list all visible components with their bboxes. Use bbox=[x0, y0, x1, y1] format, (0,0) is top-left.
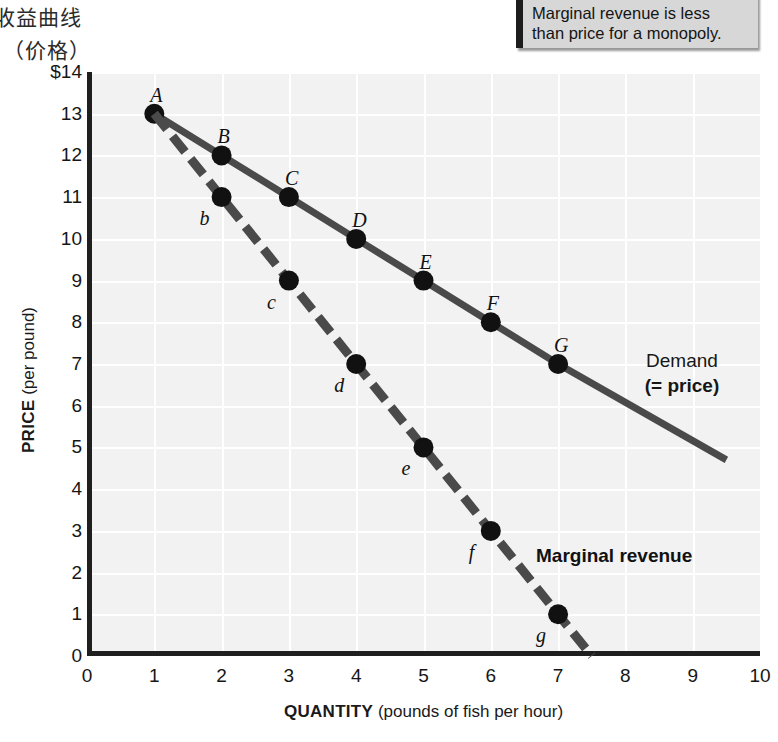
x-axis-tick-label: 5 bbox=[404, 665, 444, 687]
gridline-vertical bbox=[760, 72, 762, 656]
chinese-caption-line-2: （价格） bbox=[0, 35, 194, 68]
data-point-label: c bbox=[267, 291, 276, 314]
data-point-marker bbox=[548, 604, 568, 624]
data-point-marker bbox=[346, 354, 366, 374]
x-axis-tick-label: 6 bbox=[471, 665, 511, 687]
data-point-label: f bbox=[469, 541, 475, 564]
data-point-marker bbox=[481, 312, 501, 332]
x-axis-title-rest: (pounds of fish per hour) bbox=[373, 702, 563, 721]
chinese-caption-line-1: 收益曲线 bbox=[0, 2, 194, 35]
data-point-label: e bbox=[402, 457, 411, 480]
marginal-revenue-curve-label: Marginal revenue bbox=[536, 545, 692, 567]
data-point-label: d bbox=[334, 374, 344, 397]
demand-curve-label: Demand (= price) bbox=[617, 348, 747, 398]
demand-curve-line bbox=[154, 114, 726, 460]
x-axis-tick-label: 8 bbox=[605, 665, 645, 687]
x-axis-tick-label: 9 bbox=[673, 665, 713, 687]
y-axis-tick-label: 8 bbox=[36, 311, 82, 333]
y-axis-tick-label: 6 bbox=[36, 395, 82, 417]
data-point-label: A bbox=[150, 84, 162, 107]
y-axis-tick-label: 1 bbox=[36, 603, 82, 625]
y-axis-tick-label: 12 bbox=[36, 144, 82, 166]
y-axis-tick-label: 3 bbox=[36, 520, 82, 542]
y-axis-tick-label: 2 bbox=[36, 562, 82, 584]
data-point-marker bbox=[346, 229, 366, 249]
data-point-marker bbox=[481, 521, 501, 541]
x-axis-tick-label: 2 bbox=[202, 665, 242, 687]
y-axis-tick-label: 7 bbox=[36, 353, 82, 375]
callout-line-1: Marginal revenue is less bbox=[532, 3, 752, 23]
x-axis-tick-label: 0 bbox=[67, 665, 107, 687]
demand-curve-label-line-2: (= price) bbox=[617, 373, 747, 398]
callout-box: Marginal revenue is less than price for … bbox=[516, 0, 758, 48]
data-point-label: D bbox=[352, 209, 366, 232]
x-axis-tick-label: 4 bbox=[336, 665, 376, 687]
x-axis-title: QUANTITY (pounds of fish per hour) bbox=[87, 702, 760, 722]
y-axis-title: PRICE (per pound) bbox=[19, 265, 39, 495]
y-axis-tick-label: 9 bbox=[36, 270, 82, 292]
data-point-label: C bbox=[285, 167, 298, 190]
x-axis-tick-label: 3 bbox=[269, 665, 309, 687]
y-axis-tick-label: 5 bbox=[36, 436, 82, 458]
x-axis-tick-label: 1 bbox=[134, 665, 174, 687]
x-axis-tick-label: 7 bbox=[538, 665, 578, 687]
chinese-caption: 收益曲线 （价格） bbox=[0, 2, 194, 68]
data-point-marker bbox=[212, 187, 232, 207]
y-axis-tick-label: $14 bbox=[36, 61, 82, 83]
y-axis-tick-label: 4 bbox=[36, 478, 82, 500]
x-axis-title-strong: QUANTITY bbox=[284, 702, 373, 721]
y-axis-tick-label: 13 bbox=[36, 103, 82, 125]
callout-line-2: than price for a monopoly. bbox=[532, 23, 752, 43]
data-point-label: F bbox=[487, 292, 499, 315]
data-point-marker bbox=[548, 354, 568, 374]
y-axis-title-rest: (per pound) bbox=[19, 307, 38, 400]
demand-curve-label-line-1: Demand bbox=[646, 350, 718, 371]
data-point-label: b bbox=[200, 207, 210, 230]
data-point-label: E bbox=[420, 251, 432, 274]
y-axis-title-strong: PRICE bbox=[19, 400, 38, 453]
data-point-label: g bbox=[536, 624, 546, 647]
y-axis-tick-label: 0 bbox=[36, 645, 82, 667]
data-point-marker bbox=[279, 271, 299, 291]
x-axis-tick-labels: 012345678910 bbox=[87, 665, 778, 691]
x-axis-tick-label: 10 bbox=[740, 665, 778, 687]
y-axis-tick-label: 10 bbox=[36, 228, 82, 250]
data-point-label: B bbox=[218, 125, 230, 148]
data-point-label: G bbox=[554, 334, 568, 357]
data-point-marker bbox=[414, 437, 434, 457]
data-point-marker bbox=[414, 271, 434, 291]
y-axis-tick-label: 11 bbox=[36, 186, 82, 208]
